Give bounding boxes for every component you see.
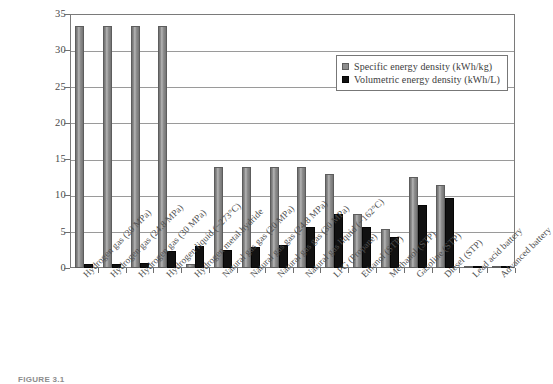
y-axis-tick-mark <box>64 87 70 88</box>
y-axis-tick-mark <box>64 159 70 160</box>
legend-item-specific: Specific energy density (kWh/kg) <box>342 60 500 73</box>
gridline <box>71 51 514 52</box>
y-axis-tick-label: 35 <box>40 9 66 19</box>
y-axis-tick-label: 0 <box>40 263 66 273</box>
y-axis-tick-mark <box>64 232 70 233</box>
gridline <box>71 196 514 197</box>
y-axis-tick-mark <box>64 195 70 196</box>
x-axis-labels: Hydrogen gas (20 MPa)Hydrogen gas (24.8 … <box>70 273 515 368</box>
y-axis-tick-mark <box>64 50 70 51</box>
legend-label-volumetric: Volumetric energy density (kWh/L) <box>354 74 500 85</box>
legend-item-volumetric: Volumetric energy density (kWh/L) <box>342 73 500 86</box>
y-axis-tick-label: 5 <box>40 227 66 237</box>
y-axis-tick-label: 15 <box>40 154 66 164</box>
figure-caption: FIGURE 3.1 <box>18 375 65 384</box>
y-axis-tick-label: 20 <box>40 118 66 128</box>
chart-legend: Specific energy density (kWh/kg) Volumet… <box>336 55 508 91</box>
y-axis-tick-label: 25 <box>40 82 66 92</box>
gridline <box>71 160 514 161</box>
y-axis-tick-mark <box>64 268 70 269</box>
y-axis-tick-label: 30 <box>40 45 66 55</box>
legend-swatch-specific-icon <box>342 63 349 70</box>
y-axis-tick-label: 10 <box>40 190 66 200</box>
y-axis-tick-mark <box>64 123 70 124</box>
y-axis-tick-mark <box>64 14 70 15</box>
gridline <box>71 123 514 124</box>
legend-label-specific: Specific energy density (kWh/kg) <box>354 61 492 72</box>
legend-swatch-volumetric-icon <box>342 76 349 83</box>
